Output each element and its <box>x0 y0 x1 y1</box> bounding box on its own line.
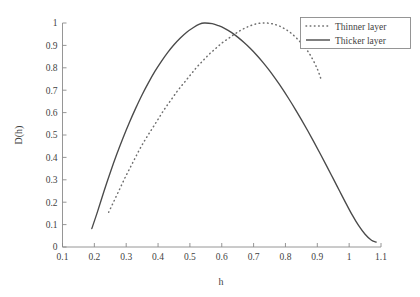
legend: Thinner layer Thicker layer <box>301 18 411 49</box>
y-tick-label: 0.8 <box>46 63 58 73</box>
y-tick-label: 0.2 <box>46 198 58 208</box>
y-tick-label: 0.4 <box>46 153 58 163</box>
x-tick-label: 0.6 <box>216 252 228 262</box>
x-tick-label: 0.5 <box>184 252 196 262</box>
y-tick-label: 0.6 <box>46 108 58 118</box>
y-tick-label: 0.5 <box>46 130 58 140</box>
x-tick-label: 0.3 <box>120 252 132 262</box>
line-chart: 00.10.20.30.40.50.60.70.80.91 0.10.20.30… <box>0 0 420 297</box>
y-tick-label: 0.3 <box>46 175 58 185</box>
x-tick-label: 0.8 <box>280 252 292 262</box>
x-tick-label: 0.1 <box>57 252 69 262</box>
y-tick-label: 0.1 <box>46 220 58 230</box>
y-tick-label: 0 <box>53 242 58 252</box>
legend-label-thinner-layer: Thinner layer <box>335 22 387 32</box>
y-tick-label: 1 <box>53 18 58 28</box>
x-tick-label: 1 <box>347 252 352 262</box>
figure-container: 00.10.20.30.40.50.60.70.80.91 0.10.20.30… <box>0 0 420 297</box>
y-tick-label: 0.9 <box>46 41 58 51</box>
legend-label-thicker-layer: Thicker layer <box>335 36 387 46</box>
x-tick-label: 0.9 <box>311 252 323 262</box>
x-tick-label: 0.4 <box>152 252 164 262</box>
y-axis-title: D(h) <box>13 126 25 145</box>
x-tick-label: 0.7 <box>248 252 260 262</box>
x-tick-label: 0.2 <box>88 252 100 262</box>
y-tick-label: 0.7 <box>46 86 58 96</box>
x-axis-title: h <box>219 276 224 287</box>
x-tick-label: 1.1 <box>375 252 387 262</box>
